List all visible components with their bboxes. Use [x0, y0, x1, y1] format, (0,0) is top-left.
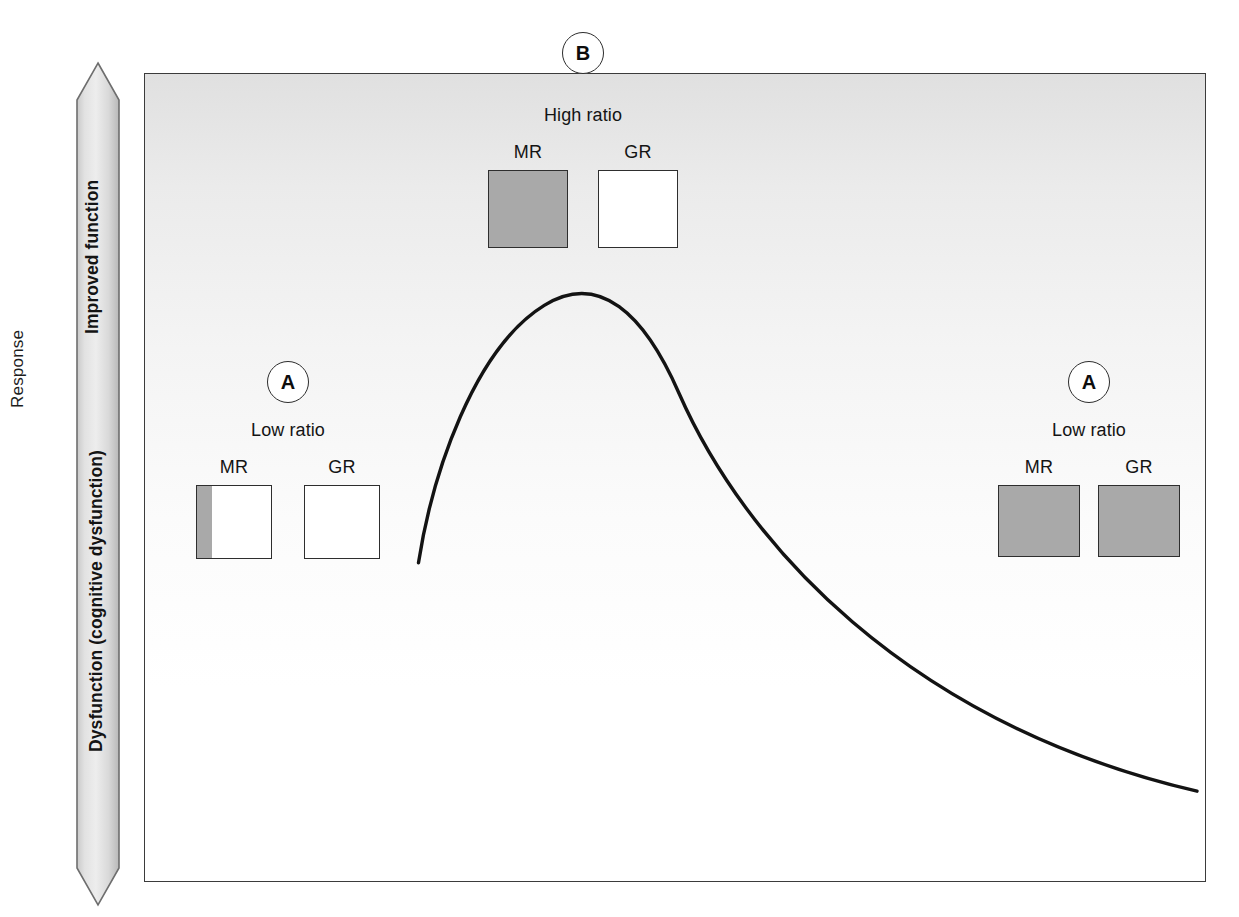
receptor-fill-mr-left [197, 486, 212, 558]
marker-circle-left-a: A [267, 361, 309, 403]
receptor-unit-gr-top: GR [598, 142, 678, 248]
group-title-top: High ratio [463, 105, 703, 126]
marker-circle-top-b: B [562, 32, 604, 74]
receptor-group-top: High ratio MR GR [463, 105, 703, 248]
receptor-label-mr-left: MR [220, 457, 249, 478]
receptor-unit-mr-top: MR [488, 142, 568, 248]
receptor-group-left: Low ratio MR GR [168, 420, 408, 559]
receptor-box-gr-top [598, 170, 678, 248]
receptor-label-mr-top: MR [514, 142, 543, 163]
group-title-left: Low ratio [168, 420, 408, 441]
receptor-label-gr-left: GR [328, 457, 356, 478]
arrow-label-dysfunction: Dysfunction (cognitive dysfunction) [86, 467, 107, 752]
receptor-fill-mr-right [999, 486, 1079, 556]
receptor-box-mr-top [488, 170, 568, 248]
receptor-group-right: Low ratio MR GR [969, 420, 1209, 557]
receptor-box-mr-right [998, 485, 1080, 557]
response-direction-arrow: Improved function Dysfunction (cognitive… [74, 60, 122, 908]
receptor-box-gr-left [304, 485, 380, 559]
y-axis-title: Response [8, 208, 36, 408]
receptor-boxes-right: MR GR [969, 457, 1209, 557]
receptor-boxes-left: MR GR [168, 457, 408, 559]
receptor-box-gr-right [1098, 485, 1180, 557]
receptor-unit-mr-left: MR [196, 457, 272, 559]
receptor-label-gr-top: GR [624, 142, 652, 163]
receptor-fill-gr-right [1099, 486, 1179, 556]
marker-circle-right-a: A [1068, 361, 1110, 403]
receptor-label-gr-right: GR [1125, 457, 1153, 478]
group-title-right: Low ratio [969, 420, 1209, 441]
receptor-unit-gr-right: GR [1098, 457, 1180, 557]
figure-root: Response Improved function Dysfunction (… [0, 0, 1239, 917]
receptor-label-mr-right: MR [1025, 457, 1054, 478]
arrow-label-improved-function: Improved function [82, 164, 103, 334]
receptor-unit-mr-right: MR [998, 457, 1080, 557]
receptor-boxes-top: MR GR [463, 142, 703, 248]
receptor-fill-mr-top [489, 171, 567, 247]
receptor-unit-gr-left: GR [304, 457, 380, 559]
receptor-box-mr-left [196, 485, 272, 559]
